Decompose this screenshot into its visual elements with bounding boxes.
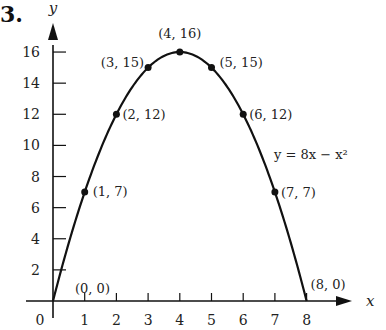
point-label: (1, 7) (93, 184, 128, 199)
y-tick-label: 2 (31, 262, 40, 278)
data-point (176, 49, 183, 56)
x-axis-label: x (366, 292, 375, 310)
y-tick-label: 12 (22, 106, 40, 122)
x-tick-label: 3 (144, 312, 153, 328)
y-axis-arrow-icon (48, 23, 58, 40)
data-point (81, 189, 88, 196)
data-point (113, 111, 120, 118)
y-tick-label: 16 (22, 44, 40, 60)
point-label: (6, 12) (249, 107, 292, 122)
point-label: (2, 12) (122, 107, 165, 122)
parabola-curve (53, 52, 307, 301)
equation-label: y = 8x − x² (273, 147, 348, 162)
x-tick-label: 2 (112, 312, 121, 328)
y-axis-label: y (48, 0, 58, 17)
point-label: (8, 0) (311, 277, 346, 292)
data-point (208, 64, 215, 71)
y-tick-label: 10 (22, 137, 40, 153)
curve (53, 52, 307, 301)
y-tick-label: 14 (22, 75, 40, 91)
data-point (145, 64, 152, 71)
point-label: (7, 7) (281, 185, 316, 200)
data-point (271, 189, 278, 196)
point-label: (5, 15) (220, 55, 263, 70)
point-label: (4, 16) (158, 26, 201, 41)
problem-number: 3. (0, 1, 23, 27)
point-label: (0, 0) (75, 281, 110, 296)
x-tick-label: 6 (239, 312, 248, 328)
point-label: (3, 15) (101, 55, 144, 70)
parabola-chart: 3. xy012345678246810121416 (0, 0)(1, 7)(… (0, 0, 386, 330)
x-tick-label: 7 (270, 312, 279, 328)
x-tick-label: 1 (80, 312, 89, 328)
x-tick-label: 8 (302, 312, 311, 328)
data-point (240, 111, 247, 118)
y-tick-label: 4 (31, 231, 40, 247)
x-tick-label: 4 (175, 312, 184, 328)
x-tick-label: 5 (207, 312, 216, 328)
origin-label: 0 (36, 312, 45, 328)
y-tick-label: 8 (31, 169, 40, 185)
x-axis-arrow-icon (336, 296, 352, 306)
y-tick-label: 6 (31, 200, 40, 216)
